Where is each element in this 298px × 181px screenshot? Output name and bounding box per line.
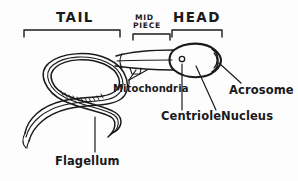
flagellum-tail bbox=[23, 54, 128, 148]
tail-bracket bbox=[24, 30, 120, 37]
mid-piece bbox=[115, 50, 174, 74]
organelle-label-centriole: Centriole bbox=[161, 109, 221, 123]
organelle-label-nucleus: Nucleus bbox=[221, 109, 273, 123]
region-label-mid-piece-line2: PIECE bbox=[133, 21, 161, 30]
organelle-label-acrosome: Acrosome bbox=[229, 83, 294, 97]
organelle-label-flagellum: Flagellum bbox=[55, 154, 120, 168]
diagram-canvas: TAIL MID PIECE HEAD Mitochondria Acrosom… bbox=[0, 0, 298, 181]
region-label-tail: TAIL bbox=[56, 9, 94, 25]
centriole-dot bbox=[179, 56, 184, 61]
head bbox=[170, 44, 222, 78]
region-label-head: HEAD bbox=[173, 9, 221, 25]
mid-piece-bracket bbox=[133, 34, 170, 40]
sperm-cell-diagram: TAIL MID PIECE HEAD Mitochondria Acrosom… bbox=[0, 0, 298, 181]
organelle-label-mitochondria: Mitochondria bbox=[113, 83, 189, 94]
head-bracket bbox=[172, 30, 222, 37]
leader-lines bbox=[95, 63, 241, 152]
